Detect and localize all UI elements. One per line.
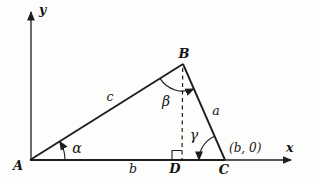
vertex-a-label: A bbox=[11, 158, 23, 173]
right-angle-mark bbox=[172, 151, 182, 160]
altitude-bd-dashed-line bbox=[182, 68, 183, 159]
angle-gamma-arc bbox=[199, 136, 215, 160]
vertex-c-label: C bbox=[219, 162, 230, 177]
triangle-diagram-svg: y x A B C D c a b α β γ (b, 0) bbox=[0, 0, 318, 183]
geometry-figure: y x A B C D c a b α β γ (b, 0) bbox=[0, 0, 318, 183]
angle-beta-arc bbox=[160, 78, 194, 91]
side-b-label: b bbox=[129, 161, 137, 176]
angle-alpha-label: α bbox=[72, 140, 82, 156]
angle-alpha-arc bbox=[60, 141, 65, 160]
vertex-d-label: D bbox=[168, 161, 181, 176]
point-c-coordinate-label: (b, 0) bbox=[229, 141, 262, 155]
side-c-label: c bbox=[106, 89, 113, 104]
y-axis-label: y bbox=[38, 2, 47, 17]
angle-gamma-label: γ bbox=[190, 127, 199, 143]
vertex-b-label: B bbox=[178, 46, 190, 61]
side-a-label: a bbox=[212, 103, 219, 118]
angle-beta-label: β bbox=[161, 93, 170, 109]
x-axis-label: x bbox=[285, 140, 294, 155]
